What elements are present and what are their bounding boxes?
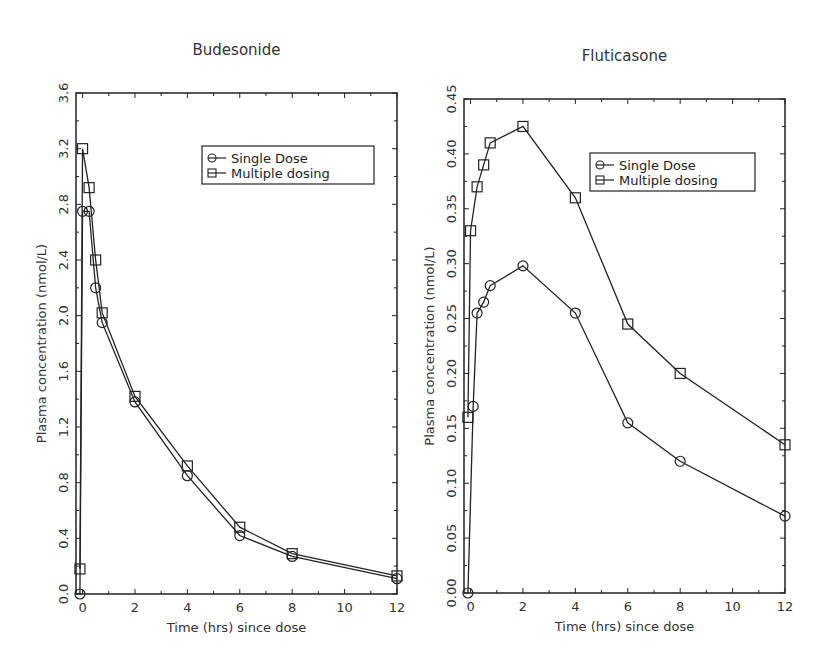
chart-fluticasone: Fluticasone0246810120.000.050.100.150.20… bbox=[422, 47, 793, 634]
x-tick-label: 12 bbox=[389, 600, 406, 615]
y-tick-label: 0.00 bbox=[444, 579, 459, 608]
y-axis-label: Plasma concentration (nmol/L) bbox=[422, 246, 437, 445]
legend-label: Single Dose bbox=[231, 151, 308, 166]
y-tick-label: 0.25 bbox=[444, 304, 459, 333]
y-tick-label: 1.2 bbox=[56, 417, 71, 438]
series-single-dose bbox=[463, 261, 790, 598]
y-tick-label: 0.10 bbox=[444, 469, 459, 498]
x-tick-label: 8 bbox=[288, 600, 296, 615]
legend: Single DoseMultiple dosing bbox=[202, 146, 374, 184]
y-tick-label: 0.15 bbox=[444, 414, 459, 443]
x-tick-label: 10 bbox=[336, 600, 353, 615]
x-tick-label: 6 bbox=[236, 600, 244, 615]
legend-label: Multiple dosing bbox=[619, 173, 718, 188]
series-line bbox=[80, 211, 397, 594]
x-tick-label: 12 bbox=[777, 599, 794, 614]
y-tick-label: 0.20 bbox=[444, 359, 459, 388]
x-tick-label: 0 bbox=[78, 600, 86, 615]
y-tick-label: 2.8 bbox=[56, 194, 71, 215]
y-tick-label: 0.35 bbox=[444, 194, 459, 223]
y-tick-label: 3.2 bbox=[56, 138, 71, 159]
x-tick-label: 10 bbox=[724, 599, 741, 614]
series-single-dose bbox=[75, 206, 402, 599]
chart-title: Budesonide bbox=[193, 41, 281, 59]
x-tick-label: 4 bbox=[183, 600, 191, 615]
chart-budesonide: Budesonide0246810120.00.40.81.21.62.02.4… bbox=[34, 41, 405, 635]
y-tick-label: 0.8 bbox=[56, 472, 71, 493]
x-tick-label: 2 bbox=[519, 599, 527, 614]
legend: Single DoseMultiple dosing bbox=[590, 153, 755, 191]
x-tick-label: 0 bbox=[466, 599, 474, 614]
series-multiple-dosing bbox=[75, 144, 402, 581]
series-line bbox=[468, 266, 785, 593]
chart-title: Fluticasone bbox=[582, 47, 668, 65]
chart-canvas: Budesonide0246810120.00.40.81.21.62.02.4… bbox=[0, 0, 830, 665]
x-tick-label: 8 bbox=[676, 599, 684, 614]
y-tick-label: 0.40 bbox=[444, 139, 459, 168]
y-tick-label: 3.6 bbox=[56, 83, 71, 104]
y-tick-label: 2.0 bbox=[56, 305, 71, 326]
legend-label: Multiple dosing bbox=[231, 166, 330, 181]
x-axis-label: Time (hrs) since dose bbox=[166, 620, 306, 635]
legend-label: Single Dose bbox=[619, 158, 696, 173]
x-tick-label: 6 bbox=[624, 599, 632, 614]
y-tick-label: 2.4 bbox=[56, 250, 71, 271]
y-tick-label: 0.0 bbox=[56, 584, 71, 605]
y-tick-label: 0.30 bbox=[444, 249, 459, 278]
y-tick-label: 0.05 bbox=[444, 524, 459, 553]
x-tick-label: 4 bbox=[571, 599, 579, 614]
series-line bbox=[80, 149, 397, 576]
x-axis-label: Time (hrs) since dose bbox=[554, 619, 694, 634]
y-tick-label: 0.45 bbox=[444, 85, 459, 114]
x-tick-label: 2 bbox=[131, 600, 139, 615]
y-tick-label: 0.4 bbox=[56, 528, 71, 549]
y-tick-label: 1.6 bbox=[56, 361, 71, 382]
y-axis-label: Plasma concentration (nmol/L) bbox=[34, 244, 49, 443]
